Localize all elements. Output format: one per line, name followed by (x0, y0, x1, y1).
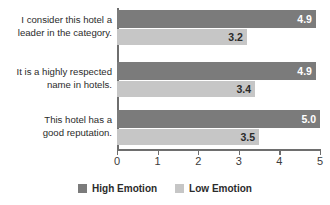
category-label-0: I consider this hotel a leader in the ca… (2, 14, 112, 39)
bar-high-emotion-2: 5.0 (117, 110, 320, 128)
x-tick-label-0: 0 (105, 155, 129, 167)
bar-value-low-1: 3.4 (236, 84, 251, 95)
legend-label-high-emotion: High Emotion (92, 183, 157, 194)
category-label-0-line-1: leader in the category. (2, 27, 112, 40)
bar-value-high-2: 5.0 (301, 114, 316, 125)
category-label-1: It is a highly respected name in hotels. (2, 66, 112, 91)
bar-high-emotion-1: 4.9 (117, 62, 316, 80)
bar-value-low-2: 3.5 (240, 132, 255, 143)
x-tick-label-2: 2 (186, 155, 210, 167)
bar-low-emotion-2: 3.5 (117, 129, 259, 145)
bar-high-emotion-0: 4.9 (117, 10, 316, 28)
x-tick-label-5: 5 (308, 155, 330, 167)
bar-value-low-0: 3.2 (228, 32, 243, 43)
x-tick-label-4: 4 (267, 155, 291, 167)
plot-area: 4.9 3.2 4.9 3.4 5.0 3.5 (117, 8, 320, 149)
legend-swatch-high-emotion (78, 184, 87, 193)
bar-value-high-0: 4.9 (297, 14, 312, 25)
chart-legend: High Emotion Low Emotion (0, 183, 330, 194)
legend-item-high-emotion: High Emotion (78, 183, 157, 194)
category-label-1-line-0: It is a highly respected (2, 66, 112, 79)
x-tick-label-3: 3 (227, 155, 251, 167)
legend-label-low-emotion: Low Emotion (189, 183, 252, 194)
x-axis-line (117, 149, 321, 151)
category-label-0-line-0: I consider this hotel a (2, 14, 112, 27)
x-tick-label-1: 1 (146, 155, 170, 167)
bar-chart: I consider this hotel a leader in the ca… (0, 0, 330, 205)
legend-swatch-low-emotion (175, 184, 184, 193)
bar-low-emotion-1: 3.4 (117, 81, 255, 97)
category-label-1-line-1: name in hotels. (2, 79, 112, 92)
legend-item-low-emotion: Low Emotion (175, 183, 252, 194)
category-label-2-line-1: good reputation. (2, 127, 112, 140)
bar-value-high-1: 4.9 (297, 66, 312, 77)
category-label-2-line-0: This hotel has a (2, 114, 112, 127)
bar-low-emotion-0: 3.2 (117, 29, 247, 45)
category-label-2: This hotel has a good reputation. (2, 114, 112, 139)
